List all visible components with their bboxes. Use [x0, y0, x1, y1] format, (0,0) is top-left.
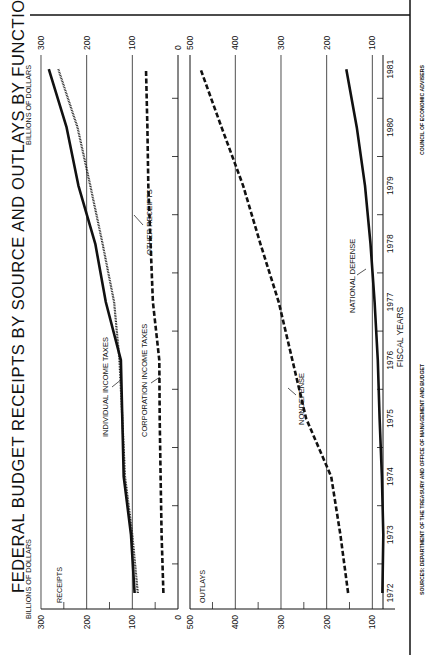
year-tick-label: 1974 [385, 467, 395, 486]
receipts-panel-label: RECEIPTS [55, 567, 64, 603]
outlays-tick-label: 300 [276, 615, 286, 629]
receipts-tick-label: 0 [173, 615, 183, 620]
series-group [49, 69, 384, 593]
year-tick-label: 1973 [385, 525, 395, 544]
annotation-corporation-income-taxes: CORPORATION INCOME TAXES [140, 324, 149, 437]
year-tick-label: 1972 [385, 583, 395, 602]
receipts-tick-label-right: 200 [82, 36, 92, 50]
receipts-tick-label-right: 100 [127, 36, 137, 50]
receipts-tick-label-right: 0 [173, 45, 183, 50]
outlays-tick-label-right: 100 [367, 36, 377, 50]
series-line-nondefense [201, 69, 349, 593]
x-axis-title: FISCAL YEARS [395, 306, 405, 367]
units-label-right: BILLIONS OF DOLLARS [24, 65, 33, 145]
annotation-leader [357, 269, 366, 275]
annotation-nondefense: NONDEFENSE [297, 373, 306, 425]
annotation-individual-income-taxes: INDIVIDUAL INCOME TAXES [101, 337, 110, 437]
annotation-leader [288, 388, 296, 395]
receipts-tick-label: 200 [82, 615, 92, 629]
units-label-left: BILLIONS OF DOLLARS [24, 539, 33, 619]
outlays-tick-label: 200 [322, 615, 332, 629]
receipts-tick-label: 100 [127, 615, 137, 629]
outlays-tick-label-right: 500 [185, 36, 195, 50]
source-note: SOURCES: DEPARTMENT OF THE TREASURY AND … [419, 363, 425, 595]
outlays-tick-label: 400 [230, 615, 240, 629]
outlays-panel-label: OUTLAYS [198, 570, 207, 603]
series-line-individual-income-taxes [49, 69, 135, 593]
outlays-tick-label: 100 [367, 615, 377, 629]
year-tick-label: 1977 [385, 292, 395, 311]
receipts-tick-label: 300 [36, 615, 46, 629]
credit-note: COUNCIL OF ECONOMIC ADVISERS [419, 64, 425, 154]
year-tick-label: 1981 [385, 59, 395, 78]
year-tick-label: 1975 [385, 409, 395, 428]
annotation-leader [134, 215, 143, 225]
year-tick-label: 1978 [385, 234, 395, 253]
rotated-chart-page: FEDERAL BUDGET RECEIPTS BY SOURCE AND OU… [0, 0, 433, 655]
annotation-other-receipts: OTHER RECEIPTS [145, 189, 154, 255]
year-tick-label: 1980 [385, 118, 395, 137]
receipts-tick-label-right: 300 [36, 36, 46, 50]
outlays-tick-label-right: 400 [230, 36, 240, 50]
year-tick-label: 1976 [385, 350, 395, 369]
annotation-national-defense: NATIONAL DEFENSE [348, 239, 357, 313]
year-tick-label: 1979 [385, 176, 395, 195]
outlays-tick-label-right: 200 [322, 36, 332, 50]
outlays-tick-label: 500 [185, 615, 195, 629]
outlays-tick-label-right: 300 [276, 36, 286, 50]
